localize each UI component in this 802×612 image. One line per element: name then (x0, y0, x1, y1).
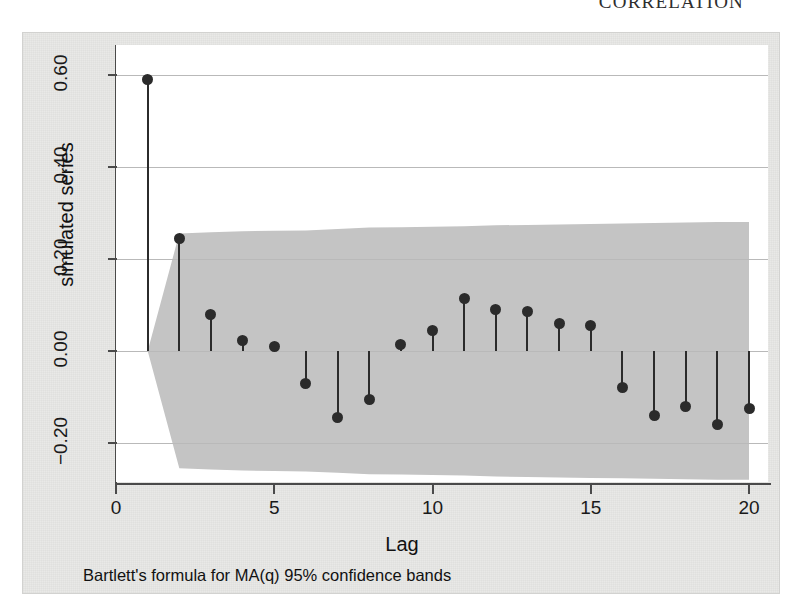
y-tick (108, 166, 117, 168)
y-tick-label: 0.00 (50, 309, 72, 389)
data-point-lag-11 (459, 293, 470, 304)
data-point-lag-19 (712, 419, 723, 430)
figure-caption: Bartlett's formula for MA(q) 95% confide… (83, 566, 451, 585)
x-tick (590, 485, 592, 494)
y-tick (108, 258, 117, 260)
x-axis-line (115, 483, 771, 485)
stem-lag-8 (368, 351, 370, 399)
x-tick (432, 485, 434, 494)
data-point-lag-2 (174, 233, 185, 244)
y-tick-label: 0.60 (50, 33, 72, 113)
data-point-lag-20 (744, 403, 755, 414)
plot-area (116, 45, 768, 482)
stem-lag-1 (147, 80, 149, 351)
stem-lag-13 (526, 312, 528, 351)
x-tick-label: 5 (244, 497, 304, 519)
stem-lag-2 (178, 238, 180, 351)
stem-lag-3 (210, 314, 212, 351)
data-point-lag-14 (554, 318, 565, 329)
confidence-band (116, 45, 768, 482)
data-point-lag-17 (649, 410, 660, 421)
stem-lag-19 (716, 351, 718, 425)
y-tick-label: −0.20 (50, 401, 72, 481)
gridline-0.00 (116, 351, 768, 352)
stem-lag-12 (495, 310, 497, 351)
x-tick-label: 15 (561, 497, 621, 519)
y-axis-title: simulated series (55, 110, 78, 320)
data-point-lag-6 (300, 378, 311, 389)
gridline-0.40 (116, 167, 768, 168)
stem-lag-11 (463, 298, 465, 351)
figure-container: −0.200.000.200.400.60 05101520 simulated… (22, 32, 780, 594)
x-tick-label: 10 (403, 497, 463, 519)
data-point-lag-18 (680, 401, 691, 412)
running-head: CORRELATION (0, 0, 802, 19)
x-tick-label: 0 (86, 497, 146, 519)
data-point-lag-5 (269, 341, 280, 352)
data-point-lag-8 (364, 394, 375, 405)
stem-lag-18 (685, 351, 687, 406)
stem-lag-17 (653, 351, 655, 415)
gridline--0.20 (116, 443, 768, 444)
x-tick (748, 485, 750, 494)
gridline-0.20 (116, 259, 768, 260)
gridline-0.60 (116, 75, 768, 76)
x-axis-title: Lag (23, 533, 781, 556)
data-point-lag-9 (395, 339, 406, 350)
y-tick (108, 442, 117, 444)
y-tick (108, 74, 117, 76)
data-point-lag-3 (205, 309, 216, 320)
x-tick-label: 20 (719, 497, 779, 519)
data-point-lag-10 (427, 325, 438, 336)
x-tick (115, 485, 117, 494)
y-tick (108, 350, 117, 352)
stem-lag-20 (748, 351, 750, 409)
stem-lag-7 (337, 351, 339, 418)
x-tick (273, 485, 275, 494)
